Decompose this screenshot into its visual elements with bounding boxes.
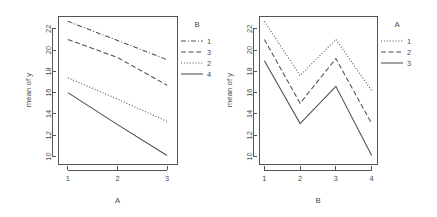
legend-label-1: 1 <box>207 37 211 46</box>
plot-box <box>58 16 177 164</box>
x-axis-title: A <box>115 196 121 205</box>
x-axis-tick-label: 1 <box>262 174 266 183</box>
y-axis-tick-label: 20 <box>45 46 54 54</box>
x-axis-tick-label: 1 <box>66 174 70 183</box>
y-axis-tick-label: 22 <box>246 25 255 33</box>
data-series-3 <box>68 39 167 85</box>
y-axis-tick-label: 10 <box>45 152 54 160</box>
x-axis-tick-label: 3 <box>165 174 169 183</box>
y-axis-title: mean of y <box>225 73 234 107</box>
y-axis-tick-label: 20 <box>246 46 255 54</box>
x-axis-tick-label: 4 <box>370 174 374 183</box>
legend-label-2: 2 <box>407 48 411 57</box>
data-series-4 <box>68 93 167 156</box>
legend-title: B <box>194 20 199 29</box>
y-axis-tick-label: 18 <box>45 67 54 75</box>
y-axis-tick-label: 18 <box>246 67 255 75</box>
plot-box <box>259 16 377 164</box>
y-axis-tick-label: 10 <box>246 152 255 160</box>
data-series-2 <box>264 39 371 123</box>
y-axis-tick-label: 14 <box>246 110 255 118</box>
chart-panel-right: 10121416182022mean of y1234BA123 <box>219 0 437 217</box>
y-axis-tick-label: 14 <box>45 110 54 118</box>
y-axis-tick-label: 16 <box>45 89 54 97</box>
x-axis-tick-label: 2 <box>298 174 302 183</box>
y-axis-tick-label: 16 <box>246 89 255 97</box>
y-axis-tick-label: 22 <box>45 25 54 33</box>
y-axis-tick-label: 12 <box>246 131 255 139</box>
data-series-1 <box>68 21 167 59</box>
y-axis-title: mean of y <box>24 73 33 107</box>
legend-label-4: 4 <box>207 70 211 79</box>
legend-label-2: 2 <box>207 59 211 68</box>
legend-label-3: 3 <box>207 48 211 57</box>
chart-panel-left: 10121416182022mean of y123AB1324 <box>0 0 218 217</box>
x-axis-tick-label: 2 <box>115 174 119 183</box>
x-axis-title: B <box>315 196 320 205</box>
y-axis-tick-label: 12 <box>45 131 54 139</box>
right-plot-svg: 10121416182022mean of y1234BA123 <box>219 0 437 217</box>
x-axis-tick-label: 3 <box>334 174 338 183</box>
legend-label-1: 1 <box>407 37 411 46</box>
left-plot-svg: 10121416182022mean of y123AB1324 <box>0 0 218 217</box>
legend-title: A <box>394 20 400 29</box>
legend-label-3: 3 <box>407 59 411 68</box>
interaction-plot-figure: 10121416182022mean of y123AB1324 1012141… <box>0 0 437 217</box>
data-series-2 <box>68 78 167 122</box>
data-series-3 <box>264 61 371 156</box>
